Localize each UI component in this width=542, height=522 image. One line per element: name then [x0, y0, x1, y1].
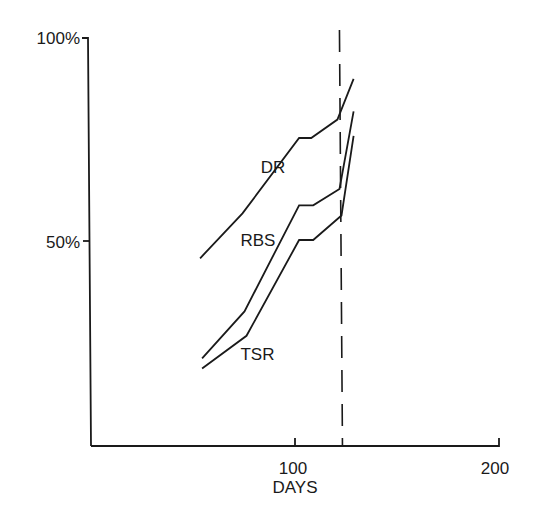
reference-dashed-line — [339, 30, 342, 446]
y-tick-label: 100% — [37, 29, 80, 48]
line-chart: 50%100%100200 DRRBSTSR DAYS — [0, 0, 542, 522]
y-axis — [82, 38, 91, 446]
series-line-rbs — [202, 111, 354, 358]
y-tick-label: 50% — [46, 233, 80, 252]
series-label-dr: DR — [261, 158, 286, 177]
axes — [82, 38, 499, 446]
x-axis-label: DAYS — [272, 478, 317, 497]
series-label-tsr: TSR — [240, 345, 274, 364]
x-tick-label: 200 — [481, 459, 509, 478]
series-label-rbs: RBS — [240, 231, 275, 250]
x-tick-label: 100 — [279, 459, 307, 478]
